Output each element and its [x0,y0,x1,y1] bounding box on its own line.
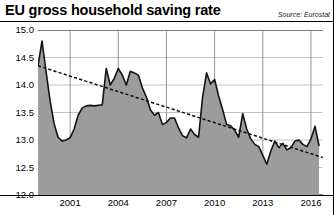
y-axis-tick-label: 14.5 [2,52,34,63]
x-axis-line [0,195,334,196]
y-axis-tick-label: 13.5 [2,107,34,118]
saving-rate-area [38,41,319,195]
x-axis-tick-label: 2004 [98,197,138,208]
y-axis-tick-label: 14.0 [2,79,34,90]
y-axis-tick-label: 15.0 [2,24,34,35]
x-axis-tick-label: 2016 [291,197,331,208]
title-divider [0,21,334,22]
x-axis-tick-label: 2007 [146,197,186,208]
y-axis-tick-label: 13.0 [2,134,34,145]
y-axis-tick-label: 12.5 [2,162,34,173]
chart-container: EU gross household saving rate Source: E… [0,0,334,215]
plot-area [38,30,323,195]
source-credit: Source: Eurostat [278,11,330,18]
x-axis-tick-label: 2010 [195,197,235,208]
x-axis-tick-label: 2013 [243,197,283,208]
x-axis-tick-label: 2001 [50,197,90,208]
page-title: EU gross household saving rate [5,2,221,18]
chart-svg [38,30,323,195]
